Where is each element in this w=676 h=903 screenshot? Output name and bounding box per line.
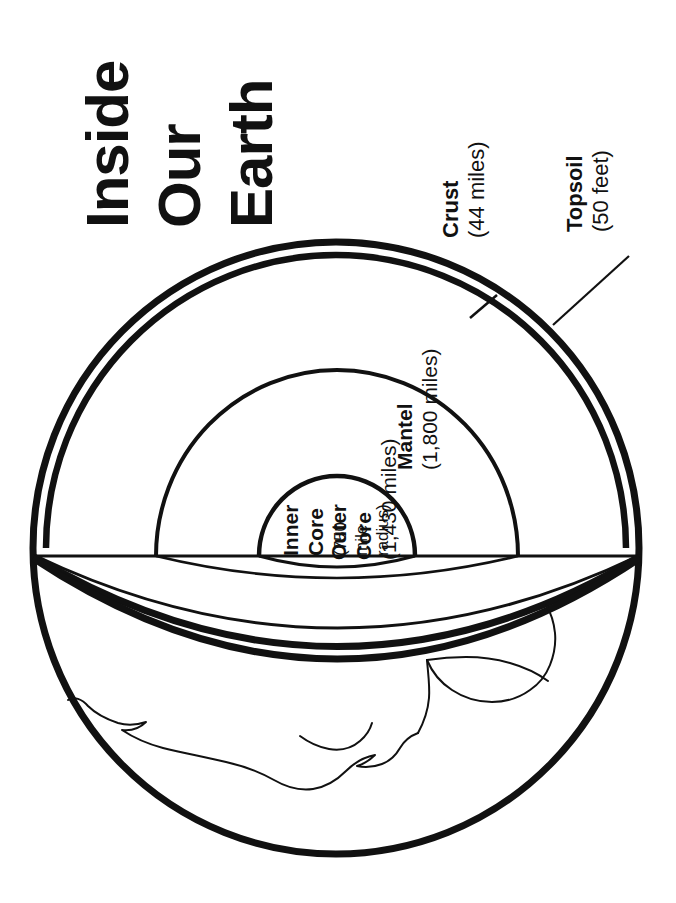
- inner-core-label-value-2: mile: [351, 504, 372, 556]
- inner-core-label-name: Inner Core: [278, 505, 328, 556]
- inner-core-label-value-1: (750: [330, 504, 351, 556]
- topsoil-label: Topsoil (50 feet): [562, 150, 614, 232]
- crust-label-value: (44 miles): [464, 141, 490, 238]
- inner-core-label-value: (750 mile radius): [330, 504, 393, 556]
- cutaway-crust-inner-ellipse: [34, 557, 639, 647]
- crust-label: Crust (44 miles): [438, 141, 490, 238]
- topsoil-label-value: (50 feet): [588, 150, 614, 232]
- crust-label-name: Crust: [438, 141, 464, 238]
- inner-core-label-name-1: Inner: [278, 505, 303, 556]
- topsoil-label-name: Topsoil: [562, 150, 588, 232]
- poster-canvas: Inside Our Earth: [0, 0, 676, 903]
- mantel-label-value: (1,800 miles): [417, 349, 442, 470]
- inner-core-label-name-2: Core: [303, 505, 328, 556]
- topsoil-leader-line: [553, 256, 629, 325]
- inner-core-label-value-3: radius): [372, 504, 393, 556]
